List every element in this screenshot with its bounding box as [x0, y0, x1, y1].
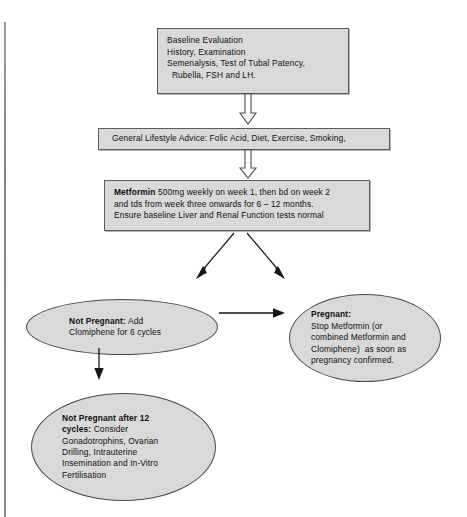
- not-pregnant-bold-lead: Not Pregnant:: [69, 316, 126, 326]
- arrow-right-icon: [219, 306, 287, 320]
- node-baseline-evaluation[interactable]: Baseline Evaluation History, Examination…: [157, 28, 349, 94]
- metformin-line-1: Metformin 500mg weekly on week 1, then b…: [114, 187, 361, 199]
- node-general-lifestyle-advice[interactable]: General Lifestyle Advice: Folic Acid, Di…: [98, 128, 390, 150]
- block-arrow-down-icon-2: [238, 150, 258, 180]
- arrow-down-right-icon: [243, 231, 291, 283]
- pregnant-line-2: combined Metformin and: [311, 332, 440, 343]
- node-not-pregnant-text: Not Pregnant: Add Clomiphene for 6 cycle…: [27, 316, 217, 339]
- block-arrow-down-icon-1: [238, 94, 258, 126]
- baseline-line-1: Baseline Evaluation: [167, 35, 340, 47]
- after-12-bold-lead-1: Not Pregnant after 12: [62, 413, 149, 423]
- after-12-line-2-rest: Consider: [91, 424, 128, 434]
- not-pregnant-line-2: Clomiphene for 6 cycles: [69, 327, 217, 338]
- node-not-pregnant-after-12-cycles[interactable]: Not Pregnant after 12 cycles: Consider G…: [31, 393, 216, 501]
- flowchart-canvas: Baseline Evaluation History, Examination…: [0, 0, 467, 517]
- node-general-lifestyle-advice-text: General Lifestyle Advice: Folic Acid, Di…: [99, 129, 389, 145]
- baseline-line-4: Rubella, FSH and LH.: [167, 70, 340, 82]
- pregnant-line-4: pregnancy confirmed.: [311, 355, 440, 366]
- arrow-down-left-icon: [190, 231, 238, 283]
- node-metformin-text: Metformin 500mg weekly on week 1, then b…: [105, 181, 369, 227]
- node-baseline-evaluation-text: Baseline Evaluation History, Examination…: [158, 29, 348, 86]
- after-12-line-6: Fertilisation: [62, 470, 215, 481]
- metformin-line-1-rest: 500mg weekly on week 1, then bd on week …: [156, 187, 331, 197]
- pregnant-bold-lead: Pregnant:: [311, 309, 440, 320]
- pregnant-line-1: Stop Metformin (or: [311, 321, 440, 332]
- scan-edge-artifact: [4, 22, 6, 517]
- after-12-line-1: Not Pregnant after 12: [62, 413, 215, 424]
- after-12-line-3: Gonadotrophins, Ovarian: [62, 436, 215, 447]
- after-12-line-5: Insemination and In-Vitro: [62, 458, 215, 469]
- pregnant-bold-lead-text: Pregnant:: [311, 309, 351, 319]
- baseline-line-3: Semenalysis, Test of Tubal Patency,: [167, 58, 340, 70]
- after-12-line-2: cycles: Consider: [62, 424, 215, 435]
- pregnant-line-3: Clomiphene) as soon as: [311, 344, 440, 355]
- node-pregnant-text: Pregnant: Stop Metformin (or combined Me…: [290, 309, 440, 366]
- lifestyle-line-1: General Lifestyle Advice: Folic Acid, Di…: [112, 133, 389, 145]
- baseline-line-2: History, Examination: [167, 47, 340, 59]
- metformin-line-2: and tds from week three onwards for 6 – …: [114, 199, 361, 211]
- node-not-pregnant-after-12-cycles-text: Not Pregnant after 12 cycles: Consider G…: [32, 413, 215, 481]
- after-12-bold-lead-2: cycles:: [62, 424, 91, 434]
- node-metformin[interactable]: Metformin 500mg weekly on week 1, then b…: [104, 180, 370, 231]
- not-pregnant-line-1: Not Pregnant: Add: [69, 316, 217, 327]
- metformin-bold-lead: Metformin: [114, 187, 156, 197]
- after-12-line-4: Drilling, Intrauterine: [62, 447, 215, 458]
- metformin-line-3: Ensure baseline Liver and Renal Function…: [114, 210, 361, 222]
- node-pregnant[interactable]: Pregnant: Stop Metformin (or combined Me…: [289, 294, 441, 382]
- node-not-pregnant[interactable]: Not Pregnant: Add Clomiphene for 6 cycle…: [26, 299, 218, 355]
- arrow-down-icon: [92, 348, 106, 382]
- not-pregnant-line-1-rest: Add: [126, 316, 143, 326]
